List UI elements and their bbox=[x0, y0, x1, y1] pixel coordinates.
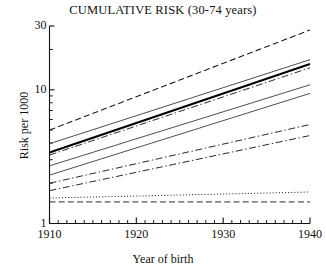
data-line-4 bbox=[50, 68, 311, 155]
x-tick-label: 1920 bbox=[114, 227, 158, 242]
data-line-2 bbox=[50, 60, 311, 144]
y-tick-marks bbox=[50, 26, 55, 224]
x-tick-label: 1930 bbox=[201, 227, 245, 242]
data-line-5 bbox=[50, 85, 311, 166]
y-tick-label: 30 bbox=[35, 18, 47, 33]
figure: CUMULATIVE RISK (30-74 years) Risk per 1… bbox=[0, 0, 326, 274]
x-tick-label: 1910 bbox=[28, 227, 72, 242]
data-line-1 bbox=[50, 30, 311, 130]
y-tick-label: 10 bbox=[35, 82, 47, 97]
data-line-3 bbox=[50, 64, 311, 152]
x-tick-label: 1940 bbox=[288, 227, 326, 242]
data-line-9 bbox=[50, 192, 311, 198]
data-lines bbox=[50, 30, 311, 202]
x-tick-marks bbox=[50, 218, 311, 224]
axes bbox=[50, 26, 311, 224]
